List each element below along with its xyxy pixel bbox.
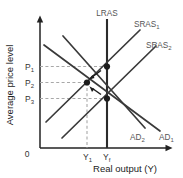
diagram-canvas: Average price level Real output (Y) 0 P1… [0, 0, 183, 178]
curve-label-sras2-base: SRAS [146, 41, 169, 50]
origin-label: 0 [25, 149, 30, 159]
y-tick-label-p2: P2 [25, 78, 35, 89]
y-tick-p2-sub: 2 [31, 83, 35, 89]
curve-label-sras1: SRAS1 [134, 20, 160, 30]
x-axis-title: Real output (Y) [93, 163, 157, 174]
y-axis-arrowhead [37, 16, 43, 23]
x-tick-labels-group: Y1 Yf [83, 152, 111, 163]
x-tick-label-y1: Y1 [83, 152, 93, 163]
curve-label-sras2-sub: 2 [168, 45, 172, 51]
ad-as-diagram-figure: Average price level Real output (Y) 0 P1… [0, 0, 183, 178]
curve-label-sras1-sub: 1 [156, 24, 160, 30]
y-tick-p1-sub: 1 [31, 67, 35, 73]
guide-lines-group [40, 67, 107, 149]
arrow-up-left-head [89, 86, 94, 92]
curve-label-sras1-base: SRAS [134, 20, 157, 29]
y-tick-label-p3: P3 [25, 94, 35, 105]
curve-label-lras: LRAS [96, 9, 118, 18]
curve-label-ad1-sub: 1 [170, 137, 174, 143]
y-axis-title: Average price level [4, 45, 15, 126]
equilibrium-point-a [104, 63, 110, 69]
y-tick-labels-group: P1 P2 P3 [25, 62, 35, 105]
curve-ad1 [44, 45, 160, 131]
curve-label-ad2: AD2 [130, 133, 145, 143]
curve-label-sras2: SRAS2 [146, 41, 172, 51]
x-tick-label-yf: Yf [103, 152, 111, 163]
curve-label-ad2-sub: 2 [141, 137, 145, 143]
y-tick-label-p1: P1 [25, 62, 35, 73]
equilibrium-point-c [104, 95, 110, 101]
y-tick-p3-sub: 3 [31, 99, 35, 105]
curve-label-ad1: AD1 [159, 133, 174, 143]
curve-label-ad2-base: AD [130, 133, 141, 142]
curve-label-ad1-base: AD [159, 133, 170, 142]
equilibrium-point-b [84, 79, 90, 85]
x-axis-arrowhead [166, 145, 173, 151]
